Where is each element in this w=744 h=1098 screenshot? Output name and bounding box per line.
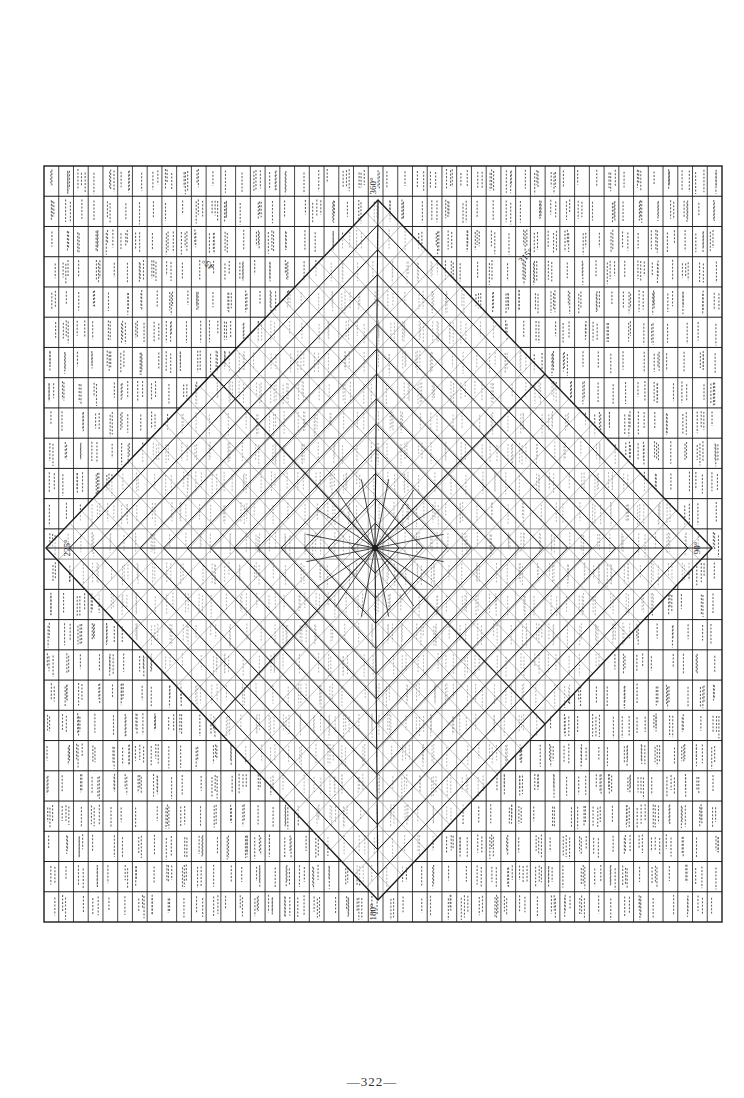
scanned-page: 360°315°45°180°225°90° —322—: [0, 0, 744, 1098]
page-number: —322—: [0, 1074, 744, 1090]
degree-marker: 180°: [368, 903, 378, 921]
degree-marker: 360°: [368, 177, 378, 195]
degree-marker: 315°: [516, 246, 535, 265]
inner-diamond: [46, 200, 712, 900]
degree-marker: 90°: [692, 541, 702, 554]
square-of-numbers-chart: 360°315°45°180°225°90°: [0, 0, 744, 1098]
degree-marker: 225°: [62, 539, 72, 557]
